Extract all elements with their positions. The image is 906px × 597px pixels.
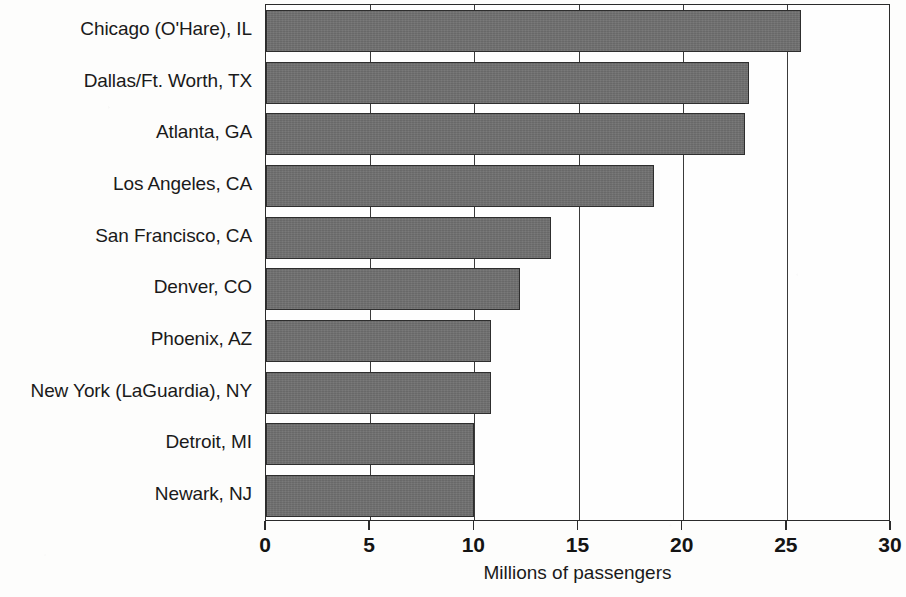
bar <box>266 268 520 310</box>
tick-mark <box>368 521 370 530</box>
tick-mark <box>577 521 579 530</box>
tick-label: 30 <box>878 533 901 557</box>
bar <box>266 62 749 104</box>
category-label: Dallas/Ft. Worth, TX <box>0 70 252 92</box>
gridline <box>787 5 788 520</box>
bar <box>266 217 551 259</box>
category-label: New York (LaGuardia), NY <box>0 380 252 402</box>
bar <box>266 475 474 517</box>
category-axis-labels: Chicago (O'Hare), ILDallas/Ft. Worth, TX… <box>0 4 252 521</box>
tick-mark <box>785 521 787 530</box>
tick-label: 20 <box>670 533 693 557</box>
chart-page: Chicago (O'Hare), ILDallas/Ft. Worth, TX… <box>0 0 906 597</box>
plot-area <box>265 4 890 521</box>
tick-mark <box>681 521 683 530</box>
tick-label: 15 <box>566 533 589 557</box>
category-label: Phoenix, AZ <box>0 328 252 350</box>
category-label: San Francisco, CA <box>0 225 252 247</box>
bar <box>266 10 801 52</box>
category-label: Detroit, MI <box>0 431 252 453</box>
bar <box>266 165 654 207</box>
category-label: Chicago (O'Hare), IL <box>0 18 252 40</box>
x-axis-title: Millions of passengers <box>265 562 890 584</box>
tick-mark <box>473 521 475 530</box>
bar <box>266 423 474 465</box>
category-label: Los Angeles, CA <box>0 173 252 195</box>
category-label: Atlanta, GA <box>0 121 252 143</box>
tick-label: 25 <box>774 533 797 557</box>
category-label: Newark, NJ <box>0 483 252 505</box>
tick-label: 5 <box>363 533 375 557</box>
bar <box>266 113 745 155</box>
bar <box>266 320 491 362</box>
tick-label: 10 <box>462 533 485 557</box>
category-label: Denver, CO <box>0 276 252 298</box>
tick-label: 0 <box>259 533 271 557</box>
bar <box>266 372 491 414</box>
tick-mark <box>889 521 891 530</box>
tick-mark <box>264 521 266 530</box>
